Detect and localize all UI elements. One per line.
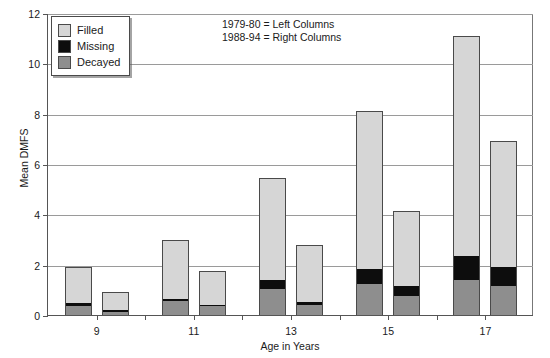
bar-segment-decayed (163, 301, 188, 315)
y-axis-tick-label: 8 (34, 109, 40, 120)
bar-segment-filled (297, 246, 322, 303)
legend: Filled Missing Decayed (51, 16, 130, 76)
x-axis-tick-label: 13 (285, 325, 297, 337)
bar-segment-missing (260, 280, 285, 289)
bar-segment-filled (200, 272, 225, 305)
bar-segment-filled (357, 112, 382, 269)
legend-label-decayed: Decayed (77, 57, 120, 68)
y-axis-tick (43, 165, 48, 166)
y-axis-tick (43, 115, 48, 116)
bar-segment-filled (103, 293, 128, 310)
x-axis-tick-label: 17 (480, 325, 492, 337)
bar-segment-decayed (103, 312, 128, 315)
annotation-line-1: 1979-80 = Left Columns (222, 18, 341, 31)
bar-segment-filled (66, 268, 91, 303)
x-axis-minor-tick (340, 315, 341, 320)
bar-segment-missing (491, 267, 516, 286)
gridline (48, 14, 533, 15)
legend-label-missing: Missing (77, 41, 114, 52)
legend-swatch-filled-icon (58, 24, 71, 37)
legend-item-decayed: Decayed (58, 54, 120, 70)
bar-segment-decayed (357, 284, 382, 315)
legend-item-missing: Missing (58, 38, 120, 54)
y-axis-tick-label: 2 (34, 260, 40, 271)
bar-segment-decayed (394, 296, 419, 315)
x-axis-minor-tick (437, 315, 438, 320)
x-axis-tick (194, 315, 195, 320)
y-axis-tick-label: 4 (34, 210, 40, 221)
bar-9-left (65, 267, 92, 315)
bar-11-right (199, 271, 226, 315)
y-axis-tick (43, 64, 48, 65)
y-axis-tick (43, 215, 48, 216)
x-axis-title: Age in Years (47, 340, 533, 352)
bar-segment-filled (491, 142, 516, 267)
x-axis-tick-label: 9 (94, 325, 100, 337)
x-axis-tick (291, 315, 292, 320)
x-axis-tick-label: 15 (382, 325, 394, 337)
y-axis-title: Mean DMFS (18, 103, 30, 213)
bar-11-left (162, 240, 189, 316)
bar-segment-missing (394, 286, 419, 296)
x-axis-tick (485, 315, 486, 320)
bar-segment-missing (357, 269, 382, 284)
bar-segment-filled (260, 179, 285, 280)
bar-segment-filled (394, 212, 419, 287)
legend-swatch-decayed-icon (58, 56, 71, 69)
bar-segment-decayed (297, 305, 322, 315)
bar-segment-filled (454, 37, 479, 256)
y-axis-tick-label: 12 (28, 9, 40, 20)
x-axis-minor-tick (242, 315, 243, 320)
bar-segment-decayed (454, 280, 479, 315)
bar-segment-decayed (200, 306, 225, 315)
bar-17-left (453, 36, 480, 315)
y-axis-tick-label: 0 (34, 311, 40, 322)
legend-item-filled: Filled (58, 22, 120, 38)
y-axis-tick (43, 316, 48, 317)
legend-label-filled: Filled (77, 25, 103, 36)
bar-9-right (102, 292, 129, 315)
x-axis-minor-tick (145, 315, 146, 320)
bar-segment-decayed (260, 289, 285, 315)
y-axis-tick-label: 10 (28, 59, 40, 70)
y-axis-tick (43, 266, 48, 267)
bar-13-right (296, 245, 323, 315)
bar-17-right (490, 141, 517, 315)
bar-segment-missing (454, 256, 479, 280)
bar-segment-filled (163, 241, 188, 299)
bar-segment-decayed (66, 306, 91, 315)
bar-chart: Mean DMFS 024681012911131517 Age in Year… (0, 0, 550, 358)
bar-13-left (259, 178, 286, 315)
annotation-line-2: 1988-94 = Right Columns (222, 31, 341, 44)
chart-annotation: 1979-80 = Left Columns 1988-94 = Right C… (222, 18, 341, 44)
bar-15-left (356, 111, 383, 315)
bar-segment-decayed (491, 286, 516, 315)
x-axis-tick-label: 11 (188, 325, 199, 337)
x-axis-tick (97, 315, 98, 320)
legend-swatch-missing-icon (58, 40, 71, 53)
x-axis-tick (388, 315, 389, 320)
bar-15-right (393, 211, 420, 315)
y-axis-tick-label: 6 (34, 160, 40, 171)
y-axis-tick (43, 14, 48, 15)
